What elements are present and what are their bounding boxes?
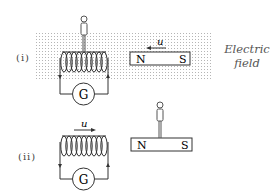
scenario-label-i: (i) [16,52,30,63]
observer-figure-ii [157,102,163,138]
svg-text:S: S [181,139,189,152]
magnet-south-label: S [179,53,187,66]
electric-field-label: Electric field [222,42,272,70]
scenario-label-ii: (ii) [18,151,36,162]
electric-field-label-line1: Electric [222,42,272,56]
diagram-canvas: G N S u G [0,0,273,196]
current-arrows-ii [58,163,110,168]
galvanometer-label: G [79,88,89,102]
velocity-arrow-ii: u [74,118,96,132]
bar-magnet-ii: N S [131,138,192,152]
svg-text:G: G [79,173,89,187]
electric-field-label-line2: field [222,56,272,70]
magnet-north-label: N [136,53,146,66]
velocity-label-ii: u [81,118,87,129]
galvanometer-ii: G [73,168,95,190]
svg-text:N: N [137,139,147,152]
galvanometer-i: G [73,83,95,105]
bar-magnet-i: N S [130,52,190,66]
velocity-label-i: u [157,36,163,47]
